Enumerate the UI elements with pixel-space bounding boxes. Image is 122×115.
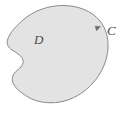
curve-label-c: C <box>107 24 116 37</box>
region-diagram-svg <box>0 0 122 115</box>
region-label-d: D <box>34 33 43 46</box>
shaded-region-d <box>7 6 108 103</box>
figure-canvas: D C <box>0 0 122 115</box>
